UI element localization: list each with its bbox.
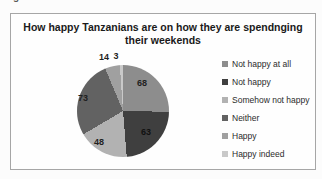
legend-swatch-icon [222, 133, 228, 139]
pie-value-label-happy-indeed: 3 [113, 51, 118, 61]
pie-chart [77, 65, 169, 157]
legend-swatch-icon [222, 61, 228, 67]
legend: Not happy at all Not happy Somehow not h… [222, 55, 310, 163]
scanned-figure-page: Figure 10 How happy Tanzanians are on ho… [0, 0, 322, 179]
pie-value-label-not-happy-at-all: 68 [137, 78, 147, 88]
legend-item-not-happy-at-all: Not happy at all [222, 55, 310, 73]
legend-label: Not happy at all [232, 59, 291, 69]
pie-value-label-not-happy: 63 [141, 127, 151, 137]
chart-frame: How happy Tanzanians are on how they are… [10, 13, 316, 170]
legend-label: Neither [232, 113, 259, 123]
legend-label: Somehow not happy [232, 95, 310, 105]
figure-caption: Figure 10 [2, 0, 82, 4]
pie-value-label-happy: 14 [99, 52, 109, 62]
legend-swatch-icon [222, 79, 228, 85]
chart-title-line-2: their weekends [11, 34, 315, 47]
legend-swatch-icon [222, 151, 228, 157]
legend-item-happy-indeed: Happy indeed [222, 145, 310, 163]
legend-label: Happy indeed [232, 149, 284, 159]
legend-item-somehow-not-happy: Somehow not happy [222, 91, 310, 109]
legend-swatch-icon [222, 97, 228, 103]
chart-title-line-1: How happy Tanzanians are on how they are… [11, 21, 315, 34]
figure-caption-text: Figure 10 [2, 0, 82, 2]
legend-swatch-icon [222, 115, 228, 121]
legend-item-not-happy: Not happy [222, 73, 310, 91]
legend-label: Not happy [232, 77, 271, 87]
pie-value-label-somehow-not-happy: 48 [94, 137, 104, 147]
legend-item-neither: Neither [222, 109, 310, 127]
chart-title: How happy Tanzanians are on how they are… [11, 21, 315, 47]
legend-item-happy: Happy [222, 127, 310, 145]
pie-value-label-neither: 73 [78, 93, 88, 103]
legend-label: Happy [232, 131, 257, 141]
